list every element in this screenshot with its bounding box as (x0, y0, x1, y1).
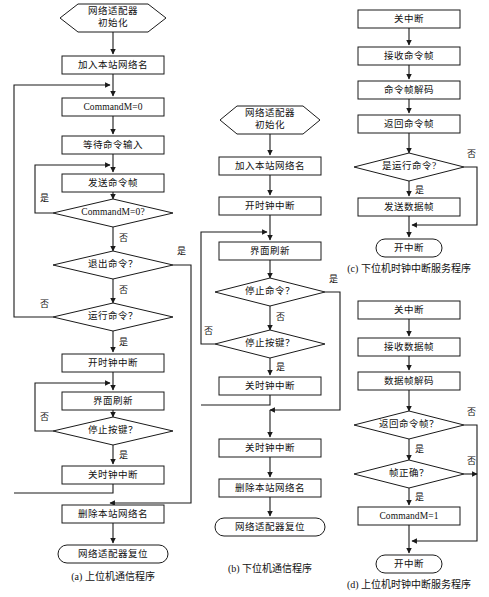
edge-label-b-1: 是 (329, 274, 338, 284)
node-b-timer-on-label: 开时钟中断 (245, 200, 295, 211)
node-a-wait: 等待命令输入 (62, 136, 164, 154)
node-d-decode-data: 数据帧解码 (358, 372, 460, 390)
edge-label-c-1: 否 (467, 149, 476, 159)
node-c-send-data: 发送数据帧 (358, 198, 460, 216)
node-c-int-off-label: 关中断 (394, 13, 424, 24)
node-c-send-data-label: 发送数据帧 (384, 201, 434, 212)
caption-c: (c) 下位机时钟中断服务程序 (347, 262, 471, 275)
node-c-decode-cmd: 命令帧解码 (358, 81, 460, 99)
node-a-timer-on: 开时钟中断 (62, 354, 164, 372)
node-c-int-on-label: 开中断 (394, 242, 424, 253)
node-a-start-label-line1: 网络适配器 (88, 5, 138, 16)
node-d-int-off: 关中断 (358, 301, 460, 319)
edge-label-a-5: 否 (40, 299, 49, 309)
node-a-cmd0-label: CommandM=0 (83, 102, 142, 112)
node-a-timer-off-label: 关时钟中断 (88, 469, 138, 480)
edge-label-a-1: 是 (40, 193, 49, 203)
node-d-int-off-label: 关中断 (394, 304, 424, 315)
node-a-join: 加入本站网络名 (62, 56, 164, 74)
edge-label-a-7: 否 (40, 412, 49, 422)
caption-d: (d) 上位机时钟中断服务程序 (347, 578, 471, 591)
node-a-check-cmd0-label: CommandM=0? (81, 207, 144, 217)
node-c-return-cmd: 返回命令帧 (358, 115, 460, 133)
node-b-refresh: 界面刷新 (219, 242, 321, 260)
node-c-decode-cmd-label: 命令帧解码 (384, 84, 434, 95)
node-a-start: 网络适配器 初始化 (60, 4, 166, 32)
node-d-is-return-cmd-label: 返回命令帧？ (379, 418, 439, 429)
node-a-refresh-label: 界面刷新 (93, 395, 133, 406)
node-b-delete-name-label: 删除本站网络名 (235, 482, 305, 493)
node-d-is-frame-ok-label: 帧正确？ (389, 467, 429, 478)
node-c-int-off: 关中断 (358, 10, 460, 28)
node-b-reset: 网络适配器复位 (215, 518, 325, 536)
edge-label-b-4: 是 (276, 362, 285, 372)
edge-label-c-2: 是 (415, 185, 424, 195)
node-b-timer-off-2: 关时钟中断 (219, 439, 321, 457)
node-a-cmd0: CommandM=0 (62, 98, 164, 116)
node-a-wait-label: 等待命令输入 (83, 139, 143, 150)
node-a-start-label-line2: 初始化 (98, 17, 128, 28)
node-a-refresh: 界面刷新 (62, 392, 164, 410)
node-a-quit-label: 退出命令？ (88, 258, 138, 269)
node-b-start-label-line1: 网络适配器 (245, 107, 295, 118)
node-a-timer-on-label: 开时钟中断 (88, 357, 138, 368)
node-d-int-on: 开中断 (376, 555, 442, 573)
node-d-recv-data: 接收数据帧 (358, 338, 460, 356)
node-a-timer-off: 关时钟中断 (62, 466, 164, 484)
node-d-int-on-label: 开中断 (394, 558, 424, 569)
node-a-send: 发送命令帧 (62, 174, 164, 192)
node-b-stop-key-label: 停止按键？ (245, 337, 295, 348)
caption-a: (a) 上位机通信程序 (71, 570, 155, 583)
node-b-reset-label: 网络适配器复位 (235, 521, 305, 532)
node-d-recv-data-label: 接收数据帧 (384, 341, 434, 352)
flowchart-figure: 网络适配器 初始化 加入本站网络名 CommandM=0 等待命令输入 发送命令… (0, 0, 489, 597)
edge-label-a-4: 否 (119, 285, 128, 295)
node-c-recv-cmd: 接收命令帧 (358, 47, 460, 65)
node-b-timer-off-2-label: 关时钟中断 (245, 442, 295, 453)
node-a-send-label: 发送命令帧 (88, 177, 138, 188)
node-d-cmd1-label: CommandM=1 (379, 511, 438, 521)
edge-label-a-6: 是 (119, 337, 128, 347)
edge-label-d-3: 否 (467, 456, 476, 466)
node-b-join-label: 加入本站网络名 (235, 160, 305, 171)
node-c-is-run-cmd-label: 是运行命令? (382, 160, 436, 171)
node-a-reset-label: 网络适配器复位 (78, 548, 148, 559)
edge-label-d-2: 是 (415, 444, 424, 454)
node-d-cmd1: CommandM=1 (358, 507, 460, 525)
node-b-stop-cmd-label: 停止命令？ (245, 285, 295, 296)
node-b-join: 加入本站网络名 (219, 157, 321, 175)
edge-label-a-8: 是 (119, 450, 128, 460)
node-b-timer-off-1: 关时钟中断 (219, 377, 321, 395)
edge-label-b-2: 否 (276, 312, 285, 322)
node-b-timer-off-1-label: 关时钟中断 (245, 380, 295, 391)
node-a-delete-name: 删除本站网络名 (62, 505, 164, 523)
node-b-timer-on: 开时钟中断 (219, 197, 321, 215)
edge-label-a-3: 是 (177, 246, 186, 256)
node-a-run-label: 运行命令？ (88, 310, 138, 321)
node-b-start-label-line2: 初始化 (255, 119, 285, 130)
node-b-refresh-label: 界面刷新 (250, 245, 290, 256)
node-b-start: 网络适配器 初始化 (220, 106, 320, 134)
edge-label-d-4: 是 (415, 492, 424, 502)
node-c-recv-cmd-label: 接收命令帧 (384, 50, 434, 61)
node-b-delete-name: 删除本站网络名 (219, 479, 321, 497)
edge-label-d-1: 否 (467, 407, 476, 417)
node-a-stop-key-label: 停止按键？ (88, 424, 138, 435)
caption-b: (b) 下位机通信程序 (228, 562, 312, 575)
node-a-reset: 网络适配器复位 (58, 545, 168, 563)
node-a-join-label: 加入本站网络名 (78, 59, 148, 70)
node-d-decode-data-label: 数据帧解码 (384, 375, 434, 386)
node-c-return-cmd-label: 返回命令帧 (384, 118, 434, 129)
edge-label-b-3: 否 (204, 326, 213, 336)
node-a-delete-name-label: 删除本站网络名 (78, 508, 148, 519)
node-c-int-on: 开中断 (376, 239, 442, 257)
edge-label-a-2: 否 (119, 233, 128, 243)
